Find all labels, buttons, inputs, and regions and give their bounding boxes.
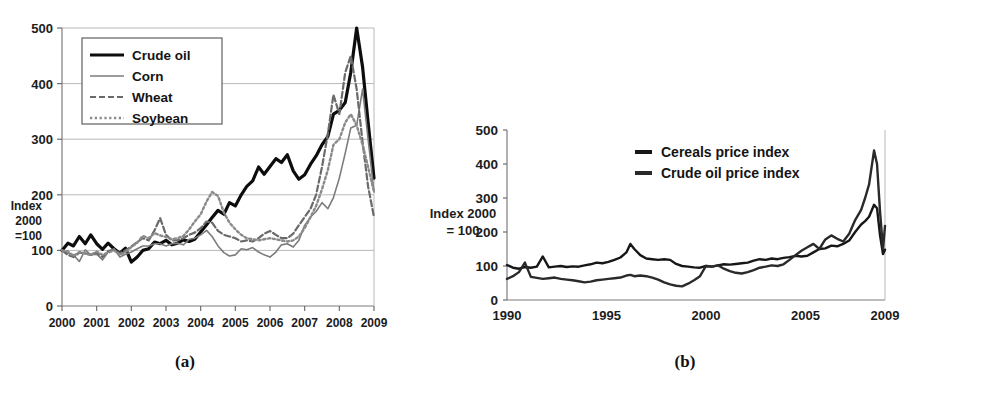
y-axis-label-line: = 100	[447, 223, 480, 238]
y-tick-label: 500	[31, 21, 53, 36]
x-tick-label: 2004	[187, 316, 214, 330]
y-tick-label: 300	[31, 132, 53, 147]
chart-panel-b: 010020030040050019901995200020052009Inde…	[385, 0, 985, 404]
chart-b-svg: 010020030040050019901995200020052009Inde…	[385, 0, 985, 348]
legend-label-corn: Corn	[132, 69, 164, 84]
x-tick-label: 2000	[49, 316, 76, 330]
x-tick-label: 1995	[592, 308, 621, 323]
x-tick-label: 2005	[791, 308, 820, 323]
y-tick-label: 400	[31, 77, 53, 92]
x-tick-label: 2000	[691, 308, 720, 323]
x-tick-label: 2006	[257, 316, 284, 330]
y-tick-label: 300	[475, 191, 498, 206]
legend-label-cereals-price-index: Cereals price index	[661, 144, 790, 160]
chart-panel-a: 0100200300400500200020012002200320042005…	[0, 0, 400, 404]
legend-label-soybean: Soybean	[132, 111, 188, 126]
y-tick-label: 0	[46, 299, 53, 314]
x-tick-label: 2008	[326, 316, 353, 330]
y-axis-label-line: Index	[11, 199, 43, 213]
figure-container: 0100200300400500200020012002200320042005…	[0, 0, 985, 404]
y-tick-label: 100	[475, 259, 498, 274]
caption-b: (b)	[655, 352, 715, 372]
y-axis-label-line: 2000	[15, 214, 42, 228]
x-tick-label: 2007	[291, 316, 318, 330]
x-tick-label: 2009	[361, 316, 388, 330]
x-tick-label: 2009	[871, 308, 900, 323]
y-tick-label: 400	[475, 157, 498, 172]
chart-a-svg: 0100200300400500200020012002200320042005…	[0, 0, 400, 348]
x-tick-label: 1990	[493, 308, 522, 323]
legend-label-wheat: Wheat	[132, 90, 173, 105]
legend-label-crude-oil: Crude oil	[132, 48, 191, 63]
y-tick-label: 500	[475, 123, 498, 138]
caption-a: (a)	[155, 352, 215, 372]
legend-label-crude-oil-price-index: Crude oil price index	[661, 165, 800, 181]
y-axis-label-line: =100	[15, 229, 42, 243]
y-tick-label: 0	[490, 293, 498, 308]
x-tick-label: 2005	[222, 316, 249, 330]
x-tick-label: 2001	[83, 316, 110, 330]
x-tick-label: 2002	[118, 316, 145, 330]
x-tick-label: 2003	[153, 316, 180, 330]
y-axis-label-line: Index 2000	[430, 206, 497, 221]
y-tick-label: 100	[31, 243, 53, 258]
